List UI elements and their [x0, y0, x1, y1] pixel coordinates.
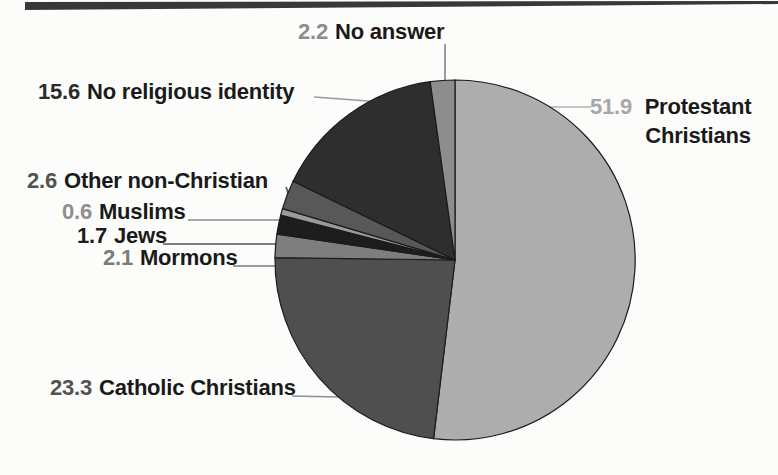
slice-value-other-non-christian: 2.6 [27, 167, 57, 196]
slice-name-no-answer: No answer [335, 18, 444, 47]
slice-label-no-answer: 2.2 No answer [298, 18, 444, 47]
slice-value-no-answer: 2.2 [298, 18, 328, 47]
slice-value-no-religious-identity: 15.6 [38, 78, 80, 107]
slice-label-no-religious-identity: 15.6 No religious identity [38, 78, 294, 107]
slice-name-other-non-christian: Other non-Christian [64, 167, 268, 196]
top-rule-bar [25, 1, 778, 10]
pie-slice-catholic-christians [275, 258, 455, 439]
leader-line-catholic-christians [292, 396, 339, 397]
slice-label-other-non-christian: 2.6 Other non-Christian [27, 167, 268, 196]
slice-name-mormons: Mormons [140, 244, 238, 273]
slice-label-protestant-christians: 51.9 Protestant Christians [590, 93, 757, 150]
slice-name-catholic-christians: Catholic Christians [99, 374, 296, 403]
slice-value-mormons: 2.1 [103, 244, 133, 273]
slice-value-catholic-christians: 23.3 [50, 374, 92, 403]
religion-pie-figure: 2.2 No answer 15.6 No religious identity… [0, 0, 778, 475]
slice-name-no-religious-identity: No religious identity [87, 78, 294, 107]
slice-label-catholic-christians: 23.3 Catholic Christians [50, 374, 296, 403]
slice-label-mormons: 2.1 Mormons [103, 244, 238, 273]
slice-name-protestant-christians: Protestant Christians [639, 93, 757, 150]
slice-value-protestant-christians: 51.9 [590, 93, 632, 122]
